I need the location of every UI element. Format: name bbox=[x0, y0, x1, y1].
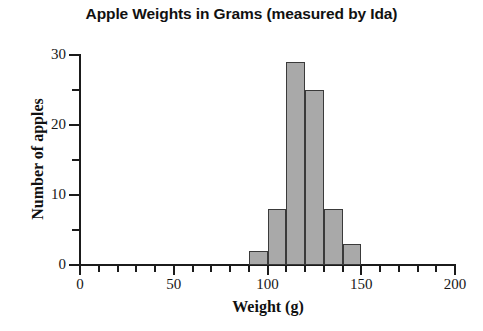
x-axis-tick-label: 0 bbox=[60, 276, 100, 293]
x-axis-minor-tick bbox=[323, 266, 325, 272]
y-axis-major-tick bbox=[69, 124, 80, 126]
x-axis-minor-tick bbox=[98, 266, 100, 272]
x-axis-tick-label: 50 bbox=[154, 276, 194, 293]
x-axis-minor-tick bbox=[417, 266, 419, 272]
x-axis-title: Weight (g) bbox=[80, 298, 456, 316]
y-axis-minor-tick bbox=[72, 89, 80, 91]
histogram-bar bbox=[249, 251, 268, 265]
x-axis-minor-tick bbox=[192, 266, 194, 272]
x-axis-minor-tick bbox=[379, 266, 381, 272]
x-axis-minor-tick bbox=[304, 266, 306, 272]
x-axis-minor-tick bbox=[248, 266, 250, 272]
plot-area: 050100150200 0102030 bbox=[0, 0, 483, 331]
x-axis-major-tick bbox=[173, 266, 175, 275]
y-axis-minor-tick bbox=[72, 159, 80, 161]
histogram-bar bbox=[305, 90, 324, 265]
x-axis-tick-label: 150 bbox=[341, 276, 381, 293]
x-axis-major-tick bbox=[454, 266, 456, 275]
x-axis-minor-tick bbox=[285, 266, 287, 272]
x-axis-tick-label: 100 bbox=[248, 276, 288, 293]
y-axis-major-tick bbox=[69, 54, 80, 56]
x-axis-major-tick bbox=[360, 266, 362, 275]
x-axis-major-tick bbox=[79, 266, 81, 275]
x-axis-minor-tick bbox=[154, 266, 156, 272]
x-axis-minor-tick bbox=[229, 266, 231, 272]
histogram-bar bbox=[268, 209, 287, 265]
y-axis-title: Number of apples bbox=[29, 59, 47, 259]
x-axis-minor-tick bbox=[117, 266, 119, 272]
x-axis-minor-tick bbox=[435, 266, 437, 272]
histogram-bar bbox=[286, 62, 305, 265]
y-axis-minor-tick bbox=[72, 229, 80, 231]
x-axis-major-tick bbox=[267, 266, 269, 275]
x-axis-minor-tick bbox=[342, 266, 344, 272]
y-axis-major-tick bbox=[69, 264, 80, 266]
histogram-bar bbox=[324, 209, 343, 265]
x-axis-tick-label: 200 bbox=[435, 276, 475, 293]
x-axis-minor-tick bbox=[398, 266, 400, 272]
histogram-chart: Apple Weights in Grams (measured by Ida)… bbox=[0, 0, 483, 331]
x-axis-minor-tick bbox=[210, 266, 212, 272]
x-axis-minor-tick bbox=[135, 266, 137, 272]
histogram-bar bbox=[343, 244, 362, 265]
y-axis-major-tick bbox=[69, 194, 80, 196]
